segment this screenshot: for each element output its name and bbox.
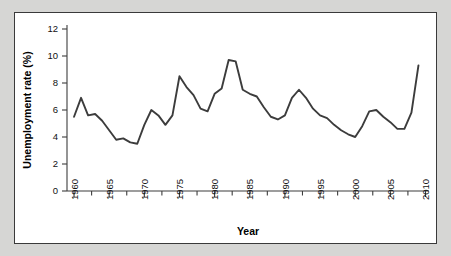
y-tick-label: 0: [53, 185, 58, 196]
x-tick-label: 1970: [139, 179, 150, 200]
x-tick-label: 1965: [104, 179, 115, 200]
unemployment-rate-series: [74, 60, 418, 144]
x-tick-label: 1995: [315, 179, 326, 200]
y-tick-label: 10: [47, 50, 58, 61]
y-tick-label: 4: [53, 131, 58, 142]
figure-panel: 024681012 196019651970197519801985199019…: [14, 12, 437, 244]
x-tick-label: 2010: [420, 179, 431, 200]
axes: [67, 25, 429, 191]
unemployment-line-chart: 024681012 196019651970197519801985199019…: [15, 13, 436, 243]
y-axis-ticks: 024681012: [47, 23, 67, 196]
x-axis-ticks: 1960196519701975198019851990199520002005…: [69, 179, 431, 200]
x-tick-label: 1990: [280, 179, 291, 200]
y-tick-label: 2: [53, 158, 58, 169]
x-tick-label: 1975: [174, 179, 185, 200]
x-tick-label: 1960: [69, 179, 80, 200]
y-tick-label: 8: [53, 77, 58, 88]
y-tick-label: 12: [47, 23, 58, 34]
x-tick-label: 1985: [244, 179, 255, 200]
y-axis-title: Unemployment rate (%): [21, 51, 33, 168]
y-tick-label: 6: [53, 104, 58, 115]
x-tick-label: 2000: [350, 179, 361, 200]
x-axis-title: Year: [237, 225, 259, 237]
x-tick-label: 1980: [209, 179, 220, 200]
x-tick-label: 2005: [385, 179, 396, 200]
